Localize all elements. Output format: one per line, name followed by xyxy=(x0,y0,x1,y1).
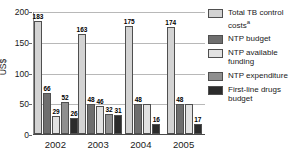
y-axis-tick-mark xyxy=(29,74,32,75)
legend-swatch xyxy=(208,49,223,58)
legend-item: Total TB control costsa xyxy=(208,8,300,30)
chart-legend: Total TB control costsaNTP budgetNTP ava… xyxy=(208,8,300,108)
legend-label: Total TB control costsa xyxy=(228,8,300,30)
bar: 17 xyxy=(194,124,202,134)
legend-item: NTP expenditure xyxy=(208,71,300,81)
bar-value-label: 26 xyxy=(70,110,77,117)
bar-value-label: 175 xyxy=(124,18,135,25)
y-axis-title: US$ xyxy=(0,59,8,76)
bar-value-label: 66 xyxy=(43,85,50,92)
bar-value-label: 48 xyxy=(135,96,142,103)
legend-label: First-line drugs budget xyxy=(228,85,300,104)
x-axis-tick-label: 2005 xyxy=(162,139,205,150)
legend-swatch xyxy=(208,9,223,18)
bar-value-label: 52 xyxy=(61,94,68,101)
bar: 46 xyxy=(96,106,104,134)
bar: 32 xyxy=(105,114,113,134)
y-axis-tick-mark xyxy=(29,104,32,105)
legend-swatch xyxy=(208,35,223,44)
bar-value-label: 17 xyxy=(194,116,201,123)
bar: 16 xyxy=(152,124,160,134)
y-axis-tick-label: 50 xyxy=(20,100,29,108)
x-axis-labels: 2002200320042005 xyxy=(34,139,205,150)
bar xyxy=(185,104,193,134)
bar: 29 xyxy=(52,116,60,134)
bar: 175 xyxy=(125,26,133,134)
x-axis-tick-label: 2002 xyxy=(34,139,77,150)
bar-group: 16348463231 xyxy=(78,12,122,134)
bar-group: 1744817 xyxy=(164,12,206,134)
bar-value-label: 183 xyxy=(33,13,44,20)
bar-value-label: 174 xyxy=(165,19,176,26)
bar: 48 xyxy=(176,104,184,134)
bar-groups: 183662952261634846323117548161744817 xyxy=(34,12,205,134)
bar-group: 18366295226 xyxy=(34,12,78,134)
bar-value-label: 16 xyxy=(153,116,160,123)
bar-value-label: 163 xyxy=(77,26,88,33)
plot-area: 183662952261634846323117548161744817 xyxy=(33,12,205,135)
legend-swatch xyxy=(208,72,223,81)
bar-chart: 050100150200 US$ 18366295226163484632311… xyxy=(0,0,300,164)
bar: 183 xyxy=(34,21,42,134)
legend-label: NTP available funding xyxy=(228,48,300,67)
bar-group: 1754816 xyxy=(122,12,164,134)
y-axis-tick-label: 200 xyxy=(15,8,29,16)
bar: 163 xyxy=(78,34,86,134)
bar-value-label: 31 xyxy=(114,107,121,114)
legend-label: NTP expenditure xyxy=(228,71,288,81)
bar: 66 xyxy=(43,93,51,134)
legend-item: First-line drugs budget xyxy=(208,85,300,104)
legend-item: NTP budget xyxy=(208,34,300,44)
bar-value-label: 29 xyxy=(52,108,59,115)
legend-footnote-marker: a xyxy=(247,19,250,25)
x-axis-line xyxy=(33,134,205,135)
y-axis-tick-mark xyxy=(29,135,32,136)
bar: 52 xyxy=(61,102,69,134)
bar-value-label: 48 xyxy=(87,96,94,103)
bar: 31 xyxy=(114,115,122,134)
legend-swatch xyxy=(208,86,223,95)
y-axis-tick-mark xyxy=(29,43,32,44)
bar-value-label: 48 xyxy=(176,96,183,103)
legend-label: NTP budget xyxy=(228,34,271,44)
legend-item: NTP available funding xyxy=(208,48,300,67)
bar: 48 xyxy=(87,104,95,134)
bar: 26 xyxy=(70,118,78,134)
y-axis-tick-mark xyxy=(29,12,32,13)
bar xyxy=(143,104,151,134)
bar-value-label: 32 xyxy=(105,106,112,113)
x-axis-tick-label: 2003 xyxy=(77,139,120,150)
y-axis-tick-label: 150 xyxy=(15,39,29,47)
bar: 174 xyxy=(167,27,175,134)
y-axis-tick-label: 100 xyxy=(15,70,29,78)
x-axis-tick-label: 2004 xyxy=(120,139,163,150)
bar: 48 xyxy=(134,104,142,134)
bar-value-label: 46 xyxy=(96,98,103,105)
